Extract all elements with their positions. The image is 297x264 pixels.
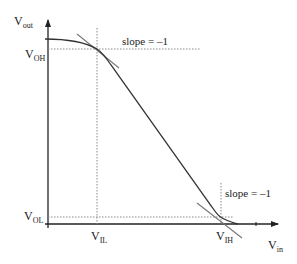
vil-label: VIL: [91, 229, 107, 245]
y-axis-label: Vout: [14, 14, 34, 30]
slope-annotation-top: slope = –1: [122, 35, 168, 47]
vih-label: VIH: [216, 229, 233, 245]
slope-annotation-bottom: slope = –1: [225, 187, 271, 199]
transfer-curve: [45, 39, 238, 224]
voh-label: VOH: [25, 47, 45, 63]
vtc-diagram: Vout VOH VOL VIL VIH Vin slope = –1 slop…: [0, 0, 297, 264]
x-axis-label: Vin: [268, 238, 283, 254]
vol-label: VOL: [24, 209, 43, 225]
tangent-line-top: [77, 34, 119, 68]
